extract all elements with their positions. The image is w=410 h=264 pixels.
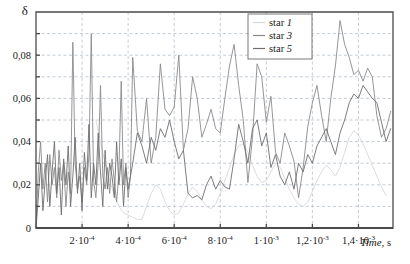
x-tick-label: 4·10-4 <box>116 234 142 246</box>
legend-label-star-1: star 1 <box>269 17 292 28</box>
y-axis-label: δ <box>22 3 28 18</box>
tick-labels-layer: 00,020,040,060,082·10-44·10-46·10-48·10-… <box>13 50 376 246</box>
y-tick-label: 0 <box>26 223 31 234</box>
x-tick-label: 8·10-4 <box>208 234 234 246</box>
y-tick-label: 0,04 <box>13 136 32 147</box>
chart-figure: 00,020,040,060,082·10-44·10-46·10-48·10-… <box>0 0 410 264</box>
legend-label-star-3: star 3 <box>269 30 292 41</box>
chart-canvas: 00,020,040,060,082·10-44·10-46·10-48·10-… <box>0 0 410 264</box>
x-axis-title-text: Time, s <box>360 236 391 248</box>
y-tick-label: 0,02 <box>13 179 31 190</box>
x-tick-label: 1·10-3 <box>254 234 280 246</box>
y-tick-label: 0,08 <box>13 50 31 61</box>
y-tick-label: 0,06 <box>13 93 31 104</box>
chart-legend: star 1star 3star 5 <box>248 14 312 59</box>
legend-label-star-5: star 5 <box>269 43 292 54</box>
x-axis-title: Time, s <box>360 236 391 248</box>
x-tick-label: 6·10-4 <box>162 234 188 246</box>
x-tick-label: 2·10-4 <box>70 234 96 246</box>
series-layer <box>36 21 391 228</box>
x-tick-label: 1,2·10-3 <box>296 234 329 246</box>
